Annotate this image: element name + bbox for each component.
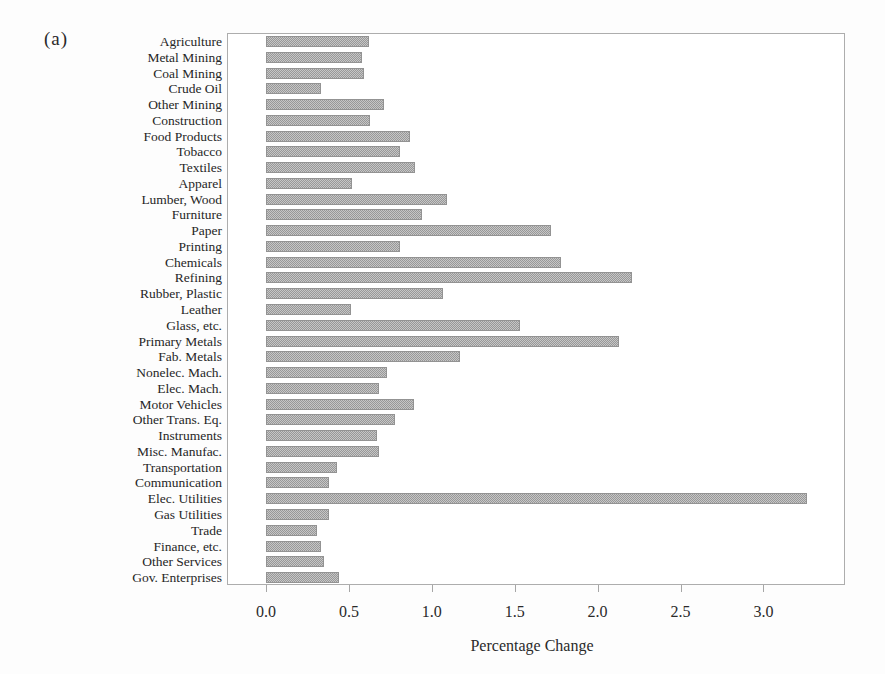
x-tick-label-2.5: 2.5 (661, 603, 701, 621)
bar-motor-vehicles (266, 399, 414, 410)
x-tick-0.5 (349, 585, 350, 592)
bar-primary-metals (266, 336, 619, 347)
bar-rubber-plastic (266, 288, 443, 299)
bar-transportation (266, 462, 337, 473)
bar-printing (266, 241, 400, 252)
category-label-other-services: Other Services (142, 554, 222, 569)
category-label-textiles: Textiles (179, 160, 222, 175)
category-label-gas-utilities: Gas Utilities (154, 507, 222, 522)
category-label-other-trans-eq: Other Trans. Eq. (133, 412, 222, 427)
category-label-crude-oil: Crude Oil (168, 81, 222, 96)
category-label-nonelec-mach: Nonelec. Mach. (136, 365, 222, 380)
x-tick-2.0 (598, 585, 599, 592)
x-tick-label-1.5: 1.5 (495, 603, 535, 621)
x-tick-label-1.0: 1.0 (412, 603, 452, 621)
category-label-apparel: Apparel (179, 176, 222, 191)
bar-glass-etc (266, 320, 520, 331)
category-label-paper: Paper (191, 223, 222, 238)
bar-other-services (266, 556, 324, 567)
category-label-refining: Refining (175, 270, 222, 285)
category-label-elec-utilities: Elec. Utilities (148, 491, 222, 506)
bar-other-mining (266, 99, 384, 110)
bar-textiles (266, 162, 415, 173)
category-label-elec-mach: Elec. Mach. (157, 381, 222, 396)
bar-agriculture (266, 36, 369, 47)
category-label-agriculture: Agriculture (160, 34, 222, 49)
category-label-printing: Printing (178, 239, 222, 254)
category-label-gov-enterprises: Gov. Enterprises (132, 570, 222, 585)
bar-other-trans-eq (266, 414, 395, 425)
x-tick-1.0 (432, 585, 433, 592)
bar-finance-etc (266, 541, 321, 552)
bar-chemicals (266, 257, 561, 268)
category-label-motor-vehicles: Motor Vehicles (139, 397, 222, 412)
bar-trade (266, 525, 317, 536)
category-label-chemicals: Chemicals (165, 255, 222, 270)
bar-construction (266, 115, 370, 126)
bar-paper (266, 225, 551, 236)
category-label-furniture: Furniture (172, 207, 222, 222)
bar-crude-oil (266, 83, 321, 94)
category-label-lumber-wood: Lumber, Wood (141, 192, 222, 207)
bar-misc-manufac (266, 446, 379, 457)
bar-lumber-wood (266, 194, 447, 205)
category-label-communication: Communication (135, 475, 222, 490)
bar-leather (266, 304, 351, 315)
bar-instruments (266, 430, 377, 441)
category-label-leather: Leather (181, 302, 222, 317)
x-tick-3.0 (763, 585, 764, 592)
bar-coal-mining (266, 68, 364, 79)
bar-gas-utilities (266, 509, 329, 520)
bar-gov-enterprises (266, 572, 339, 583)
category-label-finance-etc: Finance, etc. (153, 539, 222, 554)
bar-metal-mining (266, 52, 362, 63)
bar-apparel (266, 178, 352, 189)
x-tick-label-2.0: 2.0 (578, 603, 618, 621)
category-label-rubber-plastic: Rubber, Plastic (140, 286, 222, 301)
x-tick-label-0.5: 0.5 (329, 603, 369, 621)
x-tick-2.5 (681, 585, 682, 592)
category-label-misc-manufac: Misc. Manufac. (137, 444, 222, 459)
category-label-tobacco: Tobacco (176, 144, 222, 159)
x-tick-label-0.0: 0.0 (246, 603, 286, 621)
x-tick-0.0 (266, 585, 267, 592)
x-axis-title: Percentage Change (432, 637, 632, 655)
bar-elec-utilities (266, 493, 807, 504)
bar-nonelec-mach (266, 367, 387, 378)
category-label-metal-mining: Metal Mining (147, 50, 222, 65)
category-label-other-mining: Other Mining (148, 97, 222, 112)
category-label-glass-etc: Glass, etc. (166, 318, 222, 333)
category-label-fab-metals: Fab. Metals (158, 349, 222, 364)
category-label-primary-metals: Primary Metals (138, 334, 222, 349)
category-label-instruments: Instruments (158, 428, 222, 443)
x-tick-label-3.0: 3.0 (743, 603, 783, 621)
category-label-construction: Construction (152, 113, 222, 128)
bar-refining (266, 272, 632, 283)
figure-panel-label: (a) (44, 28, 68, 50)
bar-furniture (266, 209, 422, 220)
category-label-transportation: Transportation (143, 460, 222, 475)
bar-tobacco (266, 146, 400, 157)
bar-chart-figure: (a) AgricultureMetal MiningCoal MiningCr… (0, 0, 885, 674)
x-tick-1.5 (515, 585, 516, 592)
bar-communication (266, 477, 329, 488)
category-label-trade: Trade (191, 523, 222, 538)
category-label-coal-mining: Coal Mining (153, 66, 222, 81)
bar-food-products (266, 131, 410, 142)
bar-elec-mach (266, 383, 379, 394)
category-label-food-products: Food Products (144, 129, 222, 144)
bar-fab-metals (266, 351, 460, 362)
